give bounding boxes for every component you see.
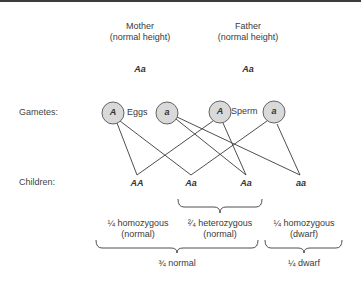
mother-phenotype: (normal height) bbox=[110, 32, 171, 43]
total-dwarf-label: ¼ dwarf bbox=[288, 258, 320, 269]
father-title: Father bbox=[218, 21, 279, 32]
heterozygous-line1: ²⁄₄ heterozygous bbox=[188, 218, 253, 229]
egg-allele-A: A bbox=[110, 107, 117, 117]
egg-allele-a: a bbox=[164, 107, 169, 117]
homozygous-dwarf-label: ¼ homozygous (dwarf) bbox=[273, 218, 334, 240]
homozygous-normal-label: ¼ homozygous (normal) bbox=[107, 218, 168, 240]
child-genotype-Aa-1: Aa bbox=[185, 178, 197, 188]
child-genotype-AA: AA bbox=[131, 178, 144, 188]
gametes-row-label: Gametes: bbox=[19, 107, 58, 118]
father-header: Father (normal height) bbox=[218, 21, 279, 43]
father-phenotype: (normal height) bbox=[218, 32, 279, 43]
heterozygous-label: ²⁄₄ heterozygous (normal) bbox=[188, 218, 253, 240]
mother-title: Mother bbox=[110, 21, 171, 32]
sperm-allele-A: A bbox=[217, 106, 224, 116]
child-genotype-aa: aa bbox=[296, 178, 306, 188]
child-genotype-Aa-2: Aa bbox=[240, 178, 252, 188]
homozygous-dwarf-line2: (dwarf) bbox=[273, 229, 334, 240]
sperm-allele-a: a bbox=[271, 106, 276, 116]
mother-genotype: Aa bbox=[134, 64, 146, 74]
inheritance-lines bbox=[117, 117, 300, 175]
sperm-label: Sperm bbox=[231, 106, 258, 117]
mother-header: Mother (normal height) bbox=[110, 21, 171, 43]
homozygous-dwarf-line1: ¼ homozygous bbox=[273, 218, 334, 229]
eggs-label: Eggs bbox=[127, 107, 148, 118]
homozygous-normal-line1: ¼ homozygous bbox=[107, 218, 168, 229]
children-row-label: Children: bbox=[19, 177, 55, 188]
father-genotype: Aa bbox=[242, 64, 254, 74]
heterozygous-line2: (normal) bbox=[188, 229, 253, 240]
homozygous-normal-line2: (normal) bbox=[107, 229, 168, 240]
total-normal-label: ¾ normal bbox=[158, 258, 196, 269]
